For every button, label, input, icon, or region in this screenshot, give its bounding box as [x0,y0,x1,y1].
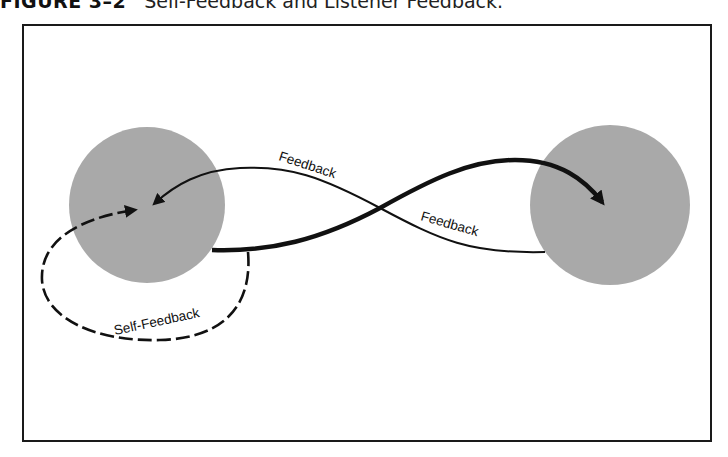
self-feedback-label: Self-Feedback [113,305,202,338]
feedback-diagram: Feedback Feedback Self-Feedback [0,0,728,457]
feedback-label-lower: Feedback [419,208,480,239]
speaker-circle [69,127,225,283]
listener-circle [530,125,690,285]
